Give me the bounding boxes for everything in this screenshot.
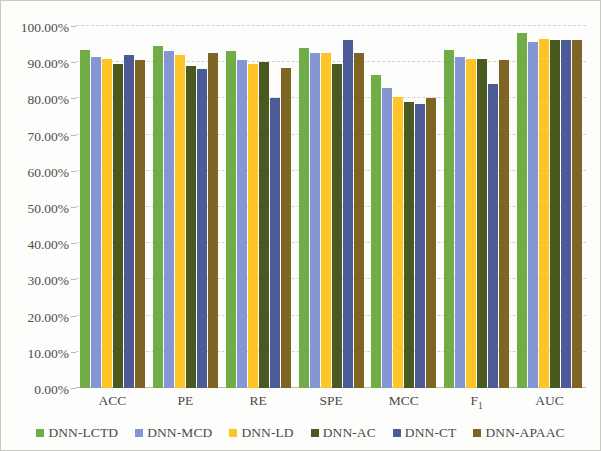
bar-dnn-ld-re <box>248 64 258 388</box>
y-tick-label-3000: 30.00% <box>1 273 69 289</box>
x-axis-label-mcc: MCC <box>367 393 440 415</box>
y-tick-label-2000: 20.00% <box>1 310 69 326</box>
bar-chart: 0.00%10.00%20.00%30.00%40.00%50.00%60.00… <box>0 0 601 451</box>
bar-dnn-ct-f <box>488 84 498 388</box>
bar-dnn-apaac-pe <box>208 53 218 388</box>
bar-dnn-ct-pe <box>197 69 207 388</box>
legend-item-dnn-ac[interactable]: DNN-AC <box>311 425 376 441</box>
legend-label: DNN-AC <box>323 425 376 441</box>
bar-dnn-lctd-re <box>226 51 236 388</box>
bar-group-re <box>222 28 295 388</box>
bar-dnn-lctd-acc <box>80 50 90 388</box>
bar-dnn-lctd-auc <box>517 33 527 388</box>
y-tick-label-9000: 90.00% <box>1 56 69 72</box>
y-axis-tick-labels: 0.00%10.00%20.00%30.00%40.00%50.00%60.00… <box>1 1 69 451</box>
legend-swatch-icon <box>473 429 481 437</box>
x-axis-label-pe: PE <box>149 393 222 415</box>
legend-label: DNN-APAAC <box>485 425 564 441</box>
bar-dnn-apaac-re <box>281 68 291 388</box>
bar-dnn-lctd-mcc <box>371 75 381 388</box>
bar-dnn-lctd-f <box>444 50 454 388</box>
legend-swatch-icon <box>135 429 143 437</box>
bar-dnn-ct-spe <box>343 40 353 388</box>
plot-area <box>76 28 586 388</box>
bar-dnn-mcd-re <box>237 60 247 388</box>
bar-dnn-ld-auc <box>539 39 549 388</box>
x-axis-label-spe: SPE <box>295 393 368 415</box>
bar-dnn-ac-spe <box>332 64 342 388</box>
x-axis-label-acc: ACC <box>76 393 149 415</box>
bar-dnn-ac-mcc <box>404 102 414 388</box>
legend-label: DNN-MCD <box>147 425 212 441</box>
bar-dnn-ct-re <box>270 98 280 388</box>
bar-dnn-ld-pe <box>175 55 185 388</box>
bar-dnn-lctd-spe <box>299 48 309 388</box>
bar-dnn-mcd-pe <box>164 51 174 388</box>
legend-swatch-icon <box>229 429 237 437</box>
y-tick-label-6000: 60.00% <box>1 165 69 181</box>
y-tick-label-7000: 70.00% <box>1 129 69 145</box>
y-tick-label-4000: 40.00% <box>1 237 69 253</box>
bar-groups <box>76 28 586 388</box>
bar-dnn-apaac-spe <box>354 53 364 388</box>
bar-dnn-ac-re <box>259 62 269 388</box>
x-axis-label-auc: AUC <box>513 393 586 415</box>
gridline-100 <box>76 25 586 26</box>
legend-swatch-icon <box>311 429 319 437</box>
y-tick-label-000: 0.00% <box>1 382 69 398</box>
bar-dnn-mcd-auc <box>528 42 538 388</box>
x-axis-category-labels: ACCPERESPEMCCF1AUC <box>76 393 586 415</box>
bar-group-acc <box>76 28 149 388</box>
y-tick-label-8000: 80.00% <box>1 92 69 108</box>
bar-dnn-ct-auc <box>561 40 571 388</box>
bar-dnn-ac-f <box>477 59 487 388</box>
legend-item-dnn-ct[interactable]: DNN-CT <box>393 425 457 441</box>
legend-label: DNN-LCTD <box>48 425 118 441</box>
y-tick-label-1000: 10.00% <box>1 346 69 362</box>
bar-dnn-ac-acc <box>113 64 123 388</box>
bar-dnn-ld-acc <box>102 59 112 388</box>
y-tick-label-10000: 100.00% <box>1 20 69 36</box>
chart-legend: DNN-LCTDDNN-MCDDNN-LDDNN-ACDNN-CTDNN-APA… <box>1 422 600 444</box>
bar-dnn-apaac-f <box>499 60 509 388</box>
y-tick-mark <box>71 388 76 389</box>
bar-dnn-ld-f <box>466 59 476 388</box>
bar-group-auc <box>513 28 586 388</box>
bar-dnn-ld-spe <box>321 53 331 388</box>
bar-dnn-apaac-acc <box>135 60 145 388</box>
bar-dnn-ld-mcc <box>393 97 403 388</box>
legend-item-dnn-lctd[interactable]: DNN-LCTD <box>36 425 118 441</box>
legend-item-dnn-ld[interactable]: DNN-LD <box>229 425 293 441</box>
y-tick-mark <box>71 26 76 27</box>
bar-dnn-ct-mcc <box>415 104 425 388</box>
bar-dnn-ac-auc <box>550 40 560 388</box>
bar-group-pe <box>149 28 222 388</box>
x-axis-label-re: RE <box>222 393 295 415</box>
bar-group-spe <box>295 28 368 388</box>
bar-dnn-ct-acc <box>124 55 134 388</box>
x-axis-label-f: F1 <box>440 393 513 415</box>
bar-dnn-mcd-spe <box>310 53 320 388</box>
bar-dnn-lctd-pe <box>153 46 163 388</box>
legend-item-dnn-apaac[interactable]: DNN-APAAC <box>473 425 564 441</box>
bar-dnn-mcd-mcc <box>382 88 392 388</box>
legend-swatch-icon <box>36 429 44 437</box>
bar-dnn-mcd-acc <box>91 57 101 388</box>
bar-group-f <box>440 28 513 388</box>
y-tick-label-5000: 50.00% <box>1 201 69 217</box>
bar-dnn-mcd-f <box>455 57 465 388</box>
legend-item-dnn-mcd[interactable]: DNN-MCD <box>135 425 212 441</box>
bar-group-mcc <box>367 28 440 388</box>
bar-dnn-apaac-mcc <box>426 98 436 388</box>
bar-dnn-ac-pe <box>186 66 196 388</box>
legend-swatch-icon <box>393 429 401 437</box>
bar-dnn-apaac-auc <box>572 40 582 388</box>
legend-label: DNN-CT <box>405 425 457 441</box>
legend-label: DNN-LD <box>241 425 293 441</box>
